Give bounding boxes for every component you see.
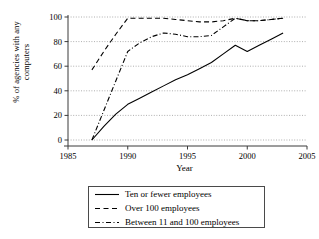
y-axis-tick-label: 20 (54, 110, 63, 120)
x-axis-tick-label: 2000 (239, 151, 256, 161)
x-axis-label: Year (0, 163, 319, 173)
legend-swatch-dashed (94, 203, 120, 214)
line-chart-figure: % of agencies with any computers 0204060… (0, 0, 319, 239)
y-axis-tick-label: 60 (54, 61, 63, 71)
x-axis-tick-label: 1990 (119, 151, 136, 161)
x-axis-label-text: Year (126, 163, 193, 173)
series-line (92, 33, 283, 140)
legend-item: Ten or fewer employees (89, 188, 264, 201)
x-axis-tick-label: 1985 (60, 151, 77, 161)
legend-label-ten-or-fewer: Ten or fewer employees (125, 189, 212, 200)
legend-label-between-11-and-100: Between 11 and 100 employees (125, 217, 239, 228)
legend-item: Between 11 and 100 employees (89, 216, 264, 229)
legend-swatch-dash-dot (94, 217, 120, 228)
series-line (92, 18, 283, 140)
legend-item: Over 100 employees (89, 202, 264, 215)
chart-legend: Ten or fewer employees Over 100 employee… (88, 186, 265, 228)
y-axis-tick-label: 40 (54, 86, 63, 96)
y-axis-tick-label: 0 (58, 135, 62, 145)
x-axis-tick-label: 1995 (179, 151, 196, 161)
y-axis-tick-label: 100 (49, 12, 62, 22)
legend-label-over-100: Over 100 employees (125, 203, 199, 214)
legend-swatch-solid (94, 189, 120, 200)
series-line (92, 18, 283, 70)
y-axis-tick-label: 80 (54, 37, 63, 47)
x-axis-tick-label: 2005 (299, 151, 316, 161)
